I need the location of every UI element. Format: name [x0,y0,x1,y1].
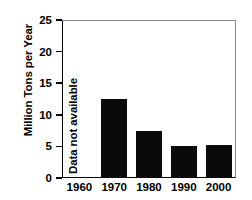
x-tick-label: 1990 [166,181,201,193]
bar [171,146,197,178]
x-tick-label: 1970 [97,181,132,193]
bar [101,99,127,178]
x-axis-ticks: 19601970198019902000 [62,181,236,199]
y-tick-label: 0 [46,170,52,186]
bar-slot: Data not available [62,20,97,178]
bar-slot [132,20,167,178]
y-tick-label: 25 [39,12,52,28]
x-tick-label: 1980 [132,181,167,193]
y-tick-label: 10 [39,107,52,123]
y-axis-title: Million Tons per Year [22,0,34,160]
bar-series: Data not available [62,20,236,178]
bar-slot [166,20,201,178]
bar-slot [201,20,236,178]
no-data-label: Data not available [67,78,79,174]
no-data-annotation: Data not available [71,24,87,174]
y-tick-label: 20 [39,44,52,60]
y-tick-label: 15 [39,75,52,91]
y-tick-label: 5 [46,138,52,154]
x-tick-label: 1960 [62,181,97,193]
bar-slot [97,20,132,178]
bar [136,131,162,178]
bar [206,145,232,178]
x-tick-label: 2000 [201,181,236,193]
bar-chart: Million Tons per Year 0510152025 Data no… [0,0,252,200]
